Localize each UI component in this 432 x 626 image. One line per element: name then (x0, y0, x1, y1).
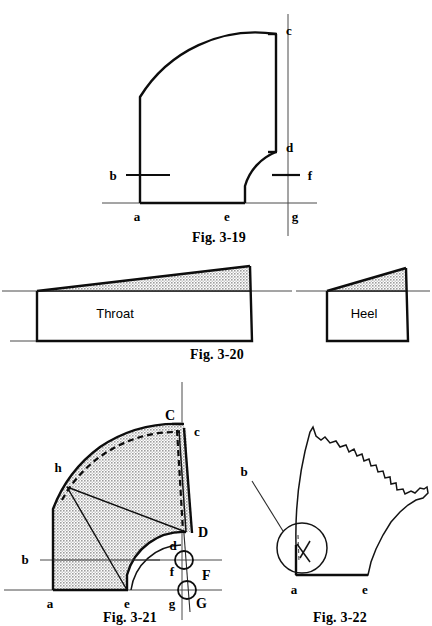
fig21-label-g: g (169, 596, 176, 611)
fig19-label-c: c (286, 23, 292, 38)
fig21-label-F: F (202, 568, 211, 583)
fig19-label-a: a (134, 209, 141, 224)
figure-sheet: b f c d a e g Fig. 3-19 Throat Heel (0, 0, 432, 626)
fig21-label-b: b (21, 552, 28, 567)
fig19-label-b: b (109, 168, 116, 183)
fig20-label-throat: Throat (96, 306, 134, 321)
fig21-label-d: d (169, 538, 177, 553)
fig21-label-f: f (170, 564, 175, 579)
fig20-label-heel: Heel (351, 306, 378, 321)
fig21-label-a: a (47, 596, 54, 611)
figure-sheet-canvas: b f c d a e g Fig. 3-19 Throat Heel (0, 0, 432, 626)
fig21-label-e: e (124, 596, 130, 611)
fig22-label-e: e (362, 582, 368, 597)
fig21-label-h: h (54, 460, 62, 475)
fig21-caption: Fig. 3-21 (103, 610, 157, 625)
fig22-caption: Fig. 3-22 (313, 610, 367, 625)
fig22-label-a: a (291, 582, 298, 597)
fig19-label-e: e (224, 209, 230, 224)
fig19-label-d: d (286, 140, 294, 155)
fig19-caption: Fig. 3-19 (192, 230, 246, 245)
fig21-label-G: G (196, 596, 207, 611)
fig19-label-f: f (308, 168, 313, 183)
fig19-label-g: g (292, 209, 299, 224)
fig20-caption: Fig. 3-20 (190, 347, 244, 362)
fig22-label-b: b (240, 464, 247, 479)
fig21-label-c: c (194, 424, 200, 439)
fig21-label-D: D (198, 525, 208, 540)
fig21-label-C: C (165, 408, 175, 423)
